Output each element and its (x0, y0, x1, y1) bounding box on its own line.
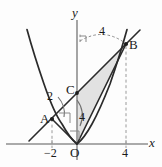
measure-label-inner: 4 (79, 111, 85, 123)
angle-arc-a (58, 97, 64, 117)
measure-label-top: 4 (99, 25, 105, 37)
x-axis-label: x (149, 136, 155, 149)
geometry-figure: y x B C A O −2 4 4 2 4 (0, 0, 162, 167)
point-c-dot (75, 91, 79, 95)
x-tick-label-4: 4 (122, 147, 128, 159)
x-tick-label-minus2: −2 (44, 147, 57, 159)
origin-label: O (70, 146, 79, 159)
point-a-dot (50, 117, 54, 121)
figure-canvas (0, 0, 162, 167)
point-label-c: C (66, 83, 75, 96)
measure-label-left: 2 (47, 90, 53, 102)
point-label-b: B (129, 38, 138, 51)
point-b-dot (124, 42, 128, 46)
right-angle-marker-top (80, 36, 86, 42)
point-label-a: A (40, 112, 49, 125)
y-axis-label: y (72, 6, 78, 19)
